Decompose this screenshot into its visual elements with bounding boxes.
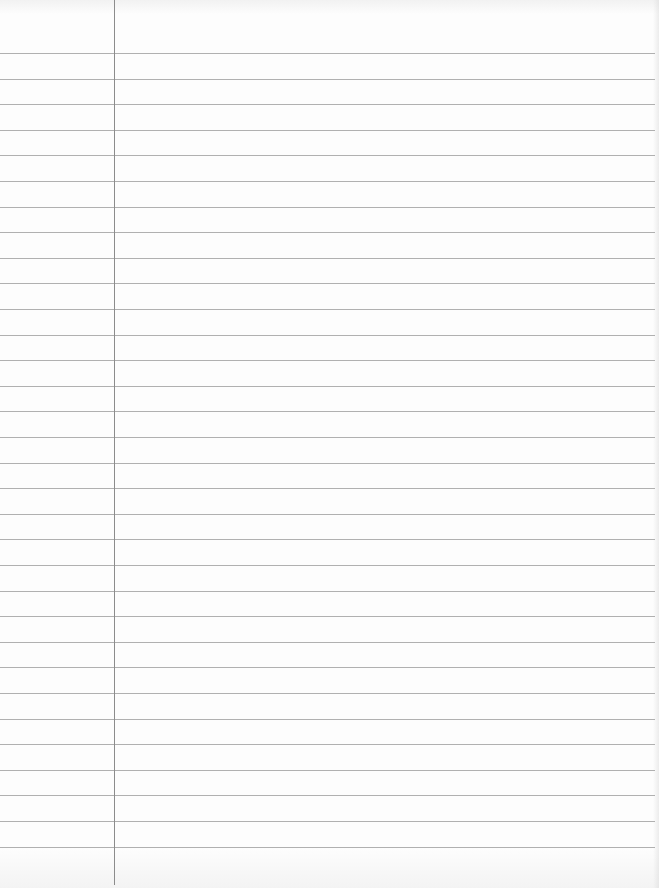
margin-line	[114, 0, 115, 885]
ruled-line	[0, 616, 655, 617]
ruled-line	[0, 693, 655, 694]
ruled-line	[0, 539, 655, 540]
ruled-line	[0, 181, 655, 182]
ruled-line	[0, 514, 655, 515]
ruled-line	[0, 79, 655, 80]
ruled-line	[0, 411, 655, 412]
paper-bottom-edge-shade	[0, 848, 659, 888]
ruled-line	[0, 437, 655, 438]
ruled-line	[0, 309, 655, 310]
paper-right-edge-shade	[653, 0, 659, 888]
ruled-line	[0, 258, 655, 259]
ruled-line	[0, 795, 655, 796]
ruled-line	[0, 155, 655, 156]
ruled-line	[0, 667, 655, 668]
ruled-line	[0, 565, 655, 566]
ruled-line	[0, 53, 655, 54]
ruled-line	[0, 360, 655, 361]
ruled-line	[0, 386, 655, 387]
ruled-line	[0, 104, 655, 105]
ruled-line	[0, 232, 655, 233]
ruled-line	[0, 283, 655, 284]
lined-paper-sheet	[0, 0, 659, 888]
ruled-line	[0, 207, 655, 208]
ruled-line	[0, 463, 655, 464]
ruled-line	[0, 488, 655, 489]
paper-top-edge-shade	[0, 0, 659, 14]
ruled-line	[0, 719, 655, 720]
ruled-line	[0, 821, 655, 822]
ruled-line	[0, 335, 655, 336]
ruled-line	[0, 591, 655, 592]
ruled-line	[0, 642, 655, 643]
ruled-line	[0, 770, 655, 771]
ruled-line	[0, 130, 655, 131]
ruled-line	[0, 744, 655, 745]
ruled-line	[0, 847, 655, 848]
